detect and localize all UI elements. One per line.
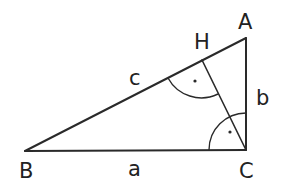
triangle-diagram: A H c b B a C — [0, 0, 286, 193]
right-angle-dot-c — [228, 130, 231, 133]
side-label-b: b — [256, 86, 269, 110]
vertex-label-b: B — [19, 159, 33, 183]
side-label-c: c — [129, 66, 141, 90]
side-label-a: a — [128, 157, 141, 181]
side-a — [25, 150, 246, 151]
right-angle-dot-h — [193, 79, 196, 82]
vertex-label-c: C — [239, 159, 254, 183]
right-angle-arc-h — [168, 78, 218, 98]
vertex-label-a: A — [238, 10, 253, 34]
altitude-ch — [202, 60, 246, 150]
right-angle-arc-c — [209, 113, 246, 150]
vertex-label-h: H — [194, 30, 210, 54]
